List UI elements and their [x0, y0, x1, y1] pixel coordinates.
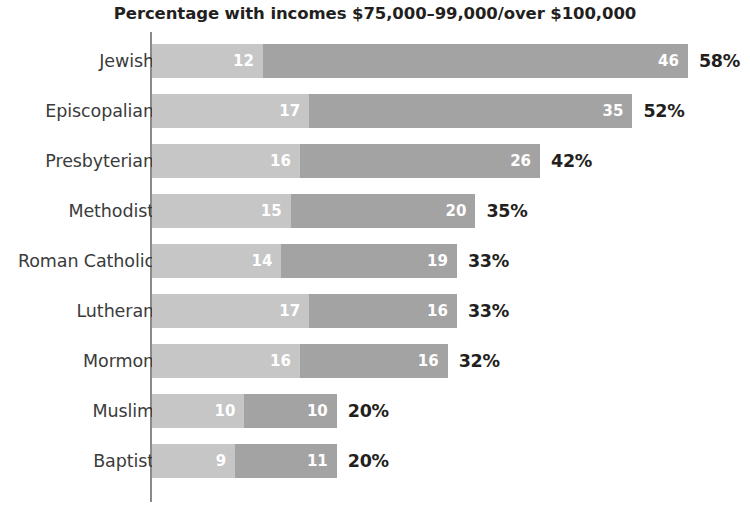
segment-value-label: 10: [307, 404, 337, 419]
bar-segment-income-75k-99k: 9: [152, 444, 235, 478]
bar-segment-income-over-100k: 35: [309, 94, 632, 128]
total-percentage-label: 33%: [468, 301, 509, 321]
stacked-bar-chart: Percentage with incomes $75,000–99,000/o…: [0, 0, 750, 513]
stacked-bar: 1716: [152, 294, 457, 328]
bar-segment-income-over-100k: 11: [235, 444, 337, 478]
segment-value-label: 14: [251, 254, 281, 269]
plot-area: Jewish124658%Episcopalian173552%Presbyte…: [0, 32, 750, 513]
segment-value-label: 10: [215, 404, 245, 419]
segment-value-label: 17: [279, 304, 309, 319]
segment-value-label: 16: [270, 154, 300, 169]
segment-value-label: 16: [427, 304, 457, 319]
segment-value-label: 11: [307, 454, 337, 469]
bar-segment-income-over-100k: 20: [291, 194, 476, 228]
stacked-bar: 1735: [152, 94, 632, 128]
stacked-bar: 1010: [152, 394, 337, 428]
bar-row: Lutheran171633%: [0, 286, 750, 336]
segment-value-label: 15: [261, 204, 291, 219]
category-label: Lutheran: [77, 301, 154, 321]
total-percentage-label: 32%: [459, 351, 500, 371]
segment-value-label: 17: [279, 104, 309, 119]
bar-segment-income-75k-99k: 17: [152, 94, 309, 128]
bar-segment-income-over-100k: 10: [244, 394, 336, 428]
bar-segment-income-75k-99k: 15: [152, 194, 291, 228]
category-label: Episcopalian: [45, 101, 154, 121]
total-percentage-label: 52%: [643, 101, 684, 121]
total-percentage-label: 42%: [551, 151, 592, 171]
stacked-bar: 1626: [152, 144, 540, 178]
bar-row: Jewish124658%: [0, 36, 750, 86]
stacked-bar: 1520: [152, 194, 475, 228]
segment-value-label: 35: [603, 104, 633, 119]
bar-row: Baptist91120%: [0, 436, 750, 486]
stacked-bar: 1616: [152, 344, 448, 378]
bar-row: Methodist152035%: [0, 186, 750, 236]
bar-segment-income-75k-99k: 16: [152, 144, 300, 178]
bar-row: Episcopalian173552%: [0, 86, 750, 136]
bar-segment-income-over-100k: 16: [309, 294, 457, 328]
category-label: Jewish: [99, 51, 154, 71]
segment-value-label: 9: [216, 454, 235, 469]
total-percentage-label: 33%: [468, 251, 509, 271]
segment-value-label: 46: [658, 54, 688, 69]
bar-segment-income-75k-99k: 17: [152, 294, 309, 328]
stacked-bar: 1419: [152, 244, 457, 278]
total-percentage-label: 35%: [486, 201, 527, 221]
total-percentage-label: 20%: [348, 451, 389, 471]
segment-value-label: 16: [270, 354, 300, 369]
stacked-bar: 1246: [152, 44, 688, 78]
bar-segment-income-75k-99k: 12: [152, 44, 263, 78]
segment-value-label: 19: [427, 254, 457, 269]
segment-value-label: 16: [418, 354, 448, 369]
chart-title: Percentage with incomes $75,000–99,000/o…: [0, 4, 750, 23]
stacked-bar: 911: [152, 444, 337, 478]
category-label: Muslim: [93, 401, 154, 421]
category-label: Roman Catholic: [18, 251, 154, 271]
bar-row: Roman Catholic141933%: [0, 236, 750, 286]
category-label: Baptist: [93, 451, 154, 471]
category-label: Methodist: [68, 201, 154, 221]
total-percentage-label: 20%: [348, 401, 389, 421]
category-label: Mormon: [83, 351, 154, 371]
bar-row: Muslim101020%: [0, 386, 750, 436]
category-label: Presbyterian: [45, 151, 154, 171]
bar-segment-income-75k-99k: 10: [152, 394, 244, 428]
segment-value-label: 20: [446, 204, 476, 219]
segment-value-label: 12: [233, 54, 263, 69]
bar-segment-income-75k-99k: 14: [152, 244, 281, 278]
bar-segment-income-over-100k: 26: [300, 144, 540, 178]
bar-segment-income-over-100k: 16: [300, 344, 448, 378]
bar-row: Presbyterian162642%: [0, 136, 750, 186]
segment-value-label: 26: [510, 154, 540, 169]
bar-segment-income-over-100k: 19: [281, 244, 457, 278]
bar-segment-income-over-100k: 46: [263, 44, 688, 78]
bar-row: Mormon161632%: [0, 336, 750, 386]
bar-segment-income-75k-99k: 16: [152, 344, 300, 378]
total-percentage-label: 58%: [699, 51, 740, 71]
